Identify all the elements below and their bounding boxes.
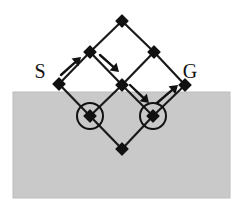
start-label: S — [34, 60, 45, 82]
graph-edge — [154, 52, 185, 85]
lattice-diagram: SG — [0, 0, 244, 215]
graph-edge — [122, 21, 154, 52]
graph-edge — [90, 21, 122, 52]
goal-label: G — [183, 60, 197, 82]
graph-edge — [59, 52, 90, 84]
direction-arrow — [100, 55, 119, 72]
figure-container: SG — [0, 0, 244, 215]
graph-edge — [122, 52, 154, 85]
